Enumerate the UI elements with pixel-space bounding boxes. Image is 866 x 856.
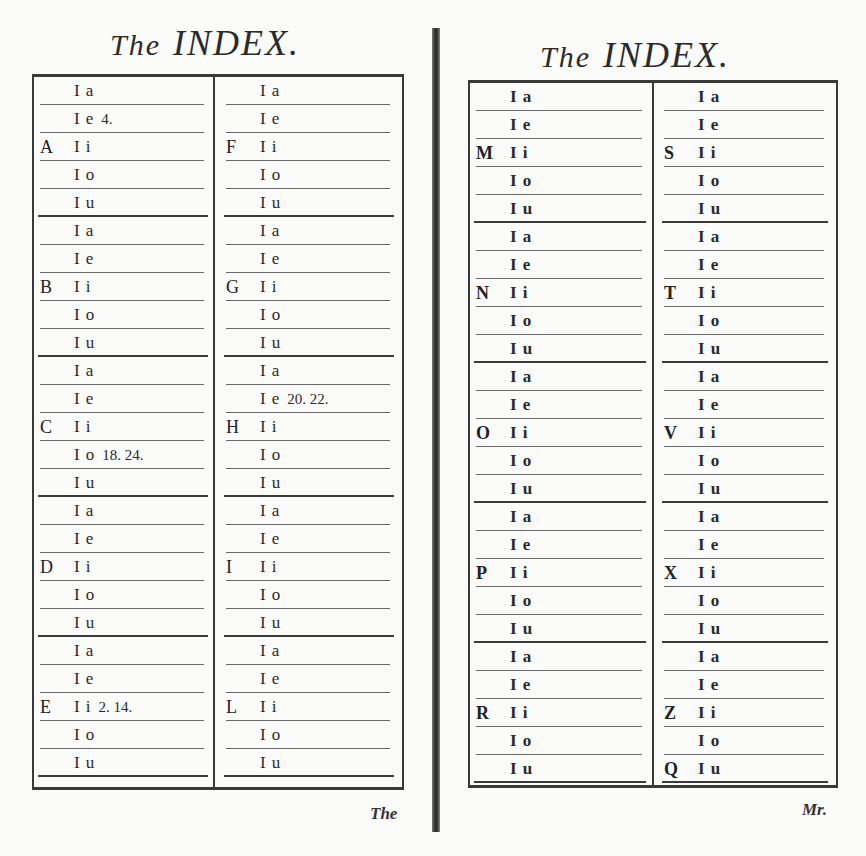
index-syllable: Iu (74, 469, 102, 497)
index-syllable: Ii (74, 553, 98, 581)
syllable-vowel: u (711, 479, 720, 498)
index-syllable: Io (510, 167, 539, 195)
syllable-vowel: a (272, 361, 280, 380)
column-divider (213, 77, 215, 787)
syllable-l: I (698, 283, 705, 302)
syllable-vowel: i (711, 143, 716, 162)
syllable-vowel: u (711, 619, 720, 638)
index-syllable: Ia (698, 223, 727, 251)
syllable-l: I (510, 171, 517, 190)
index-row: PIi (470, 559, 652, 587)
syllable-l: I (74, 389, 80, 408)
index-row: Ia (658, 503, 834, 531)
index-letter: X (664, 559, 677, 587)
index-letter: O (476, 419, 490, 447)
syllable-l: I (698, 423, 705, 442)
index-row: Ia (470, 83, 652, 111)
index-row: Ie (470, 531, 652, 559)
syllable-l: I (698, 87, 705, 106)
syllable-l: I (260, 473, 266, 492)
syllable-vowel: i (272, 697, 277, 716)
index-row: Io (220, 301, 400, 329)
syllable-vowel: i (523, 563, 528, 582)
index-letter-block: IaIeSIiIoIu (658, 83, 834, 223)
index-letter-block: IaIeXIiIoIu (658, 503, 834, 643)
index-syllable: Ii (260, 693, 284, 721)
syllable-vowel: a (523, 227, 532, 246)
index-letter: Z (664, 699, 676, 727)
index-syllable: Io (698, 587, 727, 615)
index-row: Ie (470, 251, 652, 279)
title-the: The (540, 40, 591, 73)
index-syllable: Ia (698, 503, 727, 531)
index-syllable: Iu (510, 195, 540, 223)
syllable-vowel: u (523, 199, 532, 218)
index-syllable: Ie (260, 105, 287, 133)
index-syllable: Io (510, 447, 539, 475)
syllable-vowel: u (272, 473, 281, 492)
syllable-l: I (698, 143, 705, 162)
syllable-l: I (74, 165, 80, 184)
syllable-l: I (74, 81, 80, 100)
syllable-vowel: i (86, 697, 91, 716)
syllable-vowel: a (272, 81, 280, 100)
index-row: Ia (470, 223, 652, 251)
index-row: Ia (658, 643, 834, 671)
syllable-vowel: a (272, 501, 280, 520)
index-letter: B (40, 273, 52, 301)
syllable-l: I (698, 507, 705, 526)
index-syllable: Iu (260, 189, 288, 217)
syllable-l: I (260, 193, 266, 212)
index-letter: F (226, 133, 236, 161)
index-syllable: Ie (74, 665, 101, 693)
index-row: Iu (470, 475, 652, 503)
syllable-l: I (698, 311, 705, 330)
syllable-l: I (74, 613, 80, 632)
index-row: Io (34, 161, 214, 189)
syllable-l: I (510, 87, 517, 106)
index-row: Iu (220, 609, 400, 637)
syllable-vowel: i (523, 703, 528, 722)
syllable-vowel: o (272, 165, 281, 184)
title-index: INDEX. (173, 23, 300, 63)
index-letter-block: IaIeMIiIoIu (470, 83, 652, 223)
syllable-l: I (698, 535, 705, 554)
syllable-vowel: a (711, 367, 720, 386)
index-letter: E (40, 693, 51, 721)
index-row: TIi (658, 279, 834, 307)
syllable-l: I (74, 221, 80, 240)
index-letter: D (40, 553, 53, 581)
syllable-vowel: i (711, 703, 716, 722)
catchword: The (370, 804, 397, 824)
index-letter: G (226, 273, 239, 301)
syllable-l: I (260, 249, 266, 268)
syllable-l: I (698, 395, 705, 414)
index-syllable: Ie (74, 245, 101, 273)
syllable-l: I (698, 647, 705, 666)
syllable-vowel: o (711, 171, 720, 190)
index-letter-block: IaIeDIiIoIu (34, 497, 214, 637)
index-row: Ie (658, 671, 834, 699)
right-page-title: TheINDEX. (540, 34, 730, 76)
index-syllable: Iu (74, 749, 102, 777)
syllable-vowel: e (523, 395, 531, 414)
index-syllable: Io (260, 721, 288, 749)
syllable-vowel: i (86, 557, 91, 576)
syllable-vowel: i (272, 557, 277, 576)
index-syllable: Ii (698, 419, 723, 447)
index-letter-block: IaIeIIiIoIu (220, 497, 400, 637)
index-syllable: Iu (698, 195, 728, 223)
index-letter-block: IaIeNIiIoIu (470, 223, 652, 363)
index-letter: H (226, 413, 239, 441)
right-index-table: IaIeMIiIoIuIaIeNIiIoIuIaIeOIiIoIuIaIePIi… (468, 80, 838, 788)
syllable-l: I (510, 115, 517, 134)
index-row: Ie (658, 391, 834, 419)
syllable-l: I (260, 389, 266, 408)
index-syllable: Ie (260, 245, 287, 273)
index-syllable: Ie (510, 671, 538, 699)
index-row: DIi (34, 553, 214, 581)
index-syllable: Iu (698, 335, 728, 363)
syllable-l: I (698, 759, 705, 778)
syllable-l: I (698, 675, 705, 694)
syllable-l: I (260, 333, 266, 352)
